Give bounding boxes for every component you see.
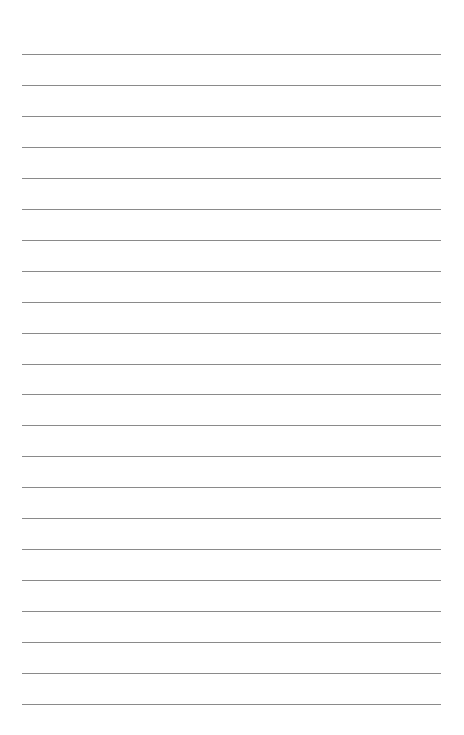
ruled-line xyxy=(22,580,441,581)
ruled-line xyxy=(22,364,441,365)
ruled-line xyxy=(22,116,441,117)
lined-paper-page xyxy=(0,0,464,735)
ruled-line xyxy=(22,178,441,179)
ruled-line xyxy=(22,302,441,303)
ruled-line xyxy=(22,425,441,426)
ruled-line xyxy=(22,642,441,643)
ruled-line xyxy=(22,209,441,210)
ruled-line xyxy=(22,333,441,334)
ruled-line xyxy=(22,271,441,272)
ruled-line xyxy=(22,85,441,86)
ruled-line xyxy=(22,518,441,519)
ruled-line xyxy=(22,673,441,674)
ruled-line xyxy=(22,456,441,457)
ruled-line xyxy=(22,487,441,488)
ruled-line xyxy=(22,611,441,612)
ruled-line xyxy=(22,147,441,148)
ruled-line xyxy=(22,54,441,55)
ruled-line xyxy=(22,394,441,395)
ruled-line xyxy=(22,240,441,241)
ruled-line xyxy=(22,549,441,550)
ruled-line xyxy=(22,704,441,705)
